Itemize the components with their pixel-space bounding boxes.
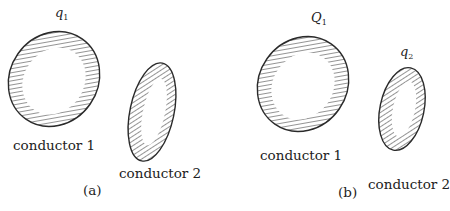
panel-b-conductor-2-shape	[372, 63, 433, 154]
panel-a-conductor-2-label: conductor 2	[119, 165, 201, 181]
panel-b-conductor-2-label: conductor 2	[368, 176, 450, 192]
panel-b-conductor-1-label: conductor 1	[260, 147, 342, 163]
panel-b-caption: (b)	[338, 184, 357, 200]
panel-a-charge-q1: q1	[55, 5, 68, 22]
panel-b-conductor-1-shape	[239, 19, 367, 150]
panel-b-charge-Q1: Q1	[311, 10, 327, 27]
panel-a-conductor-1-shape	[0, 14, 118, 145]
panel-a-caption: (a)	[83, 182, 102, 198]
panel-b-charge-q2: q2	[400, 44, 413, 61]
panel-a-conductor-1-label: conductor 1	[13, 137, 95, 153]
panel-a-conductor-2-shape	[120, 59, 184, 166]
